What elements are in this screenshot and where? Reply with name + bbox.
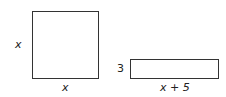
rectangle-width-label: x + 5 bbox=[160, 82, 190, 94]
square-left-label: x bbox=[15, 39, 22, 51]
square-bottom-label: x bbox=[62, 82, 69, 94]
rectangle-height-label: 3 bbox=[117, 63, 124, 75]
rectangle bbox=[130, 59, 219, 79]
square bbox=[32, 11, 99, 79]
